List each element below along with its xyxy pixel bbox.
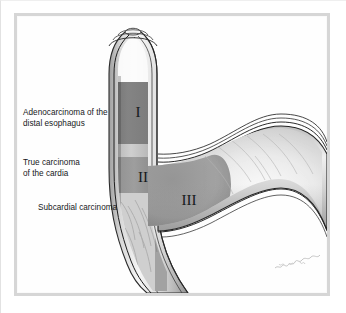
label-true-carcinoma-cardia: True carcinoma of the cardia (23, 158, 80, 179)
label-subcardial-carcinoma: Subcardial carcinoma (38, 203, 117, 214)
zone-marker-2: II (138, 169, 148, 185)
label-adenocarcinoma-distal-esophagus: Adenocarcinoma of the distal esophagus (23, 108, 108, 129)
zone-marker-1: I (136, 104, 141, 120)
esophagus-stomach-diagram: I II III (17, 16, 327, 293)
zone-marker-3: III (182, 192, 197, 208)
stomach (145, 114, 327, 246)
illustration-page: I II III Adenocarcinoma of the distal es… (0, 0, 346, 313)
artist-signature (275, 255, 320, 268)
anatomy-illustration: I II III (17, 16, 327, 293)
